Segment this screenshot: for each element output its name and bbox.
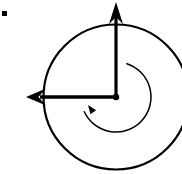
- bullet-marker: [2, 11, 7, 16]
- figure-root: Angular velocity vector diagram: [0, 0, 182, 174]
- origin-dot: [113, 94, 119, 100]
- figure-background: [0, 0, 182, 174]
- vector-diagram-svg: [0, 0, 182, 174]
